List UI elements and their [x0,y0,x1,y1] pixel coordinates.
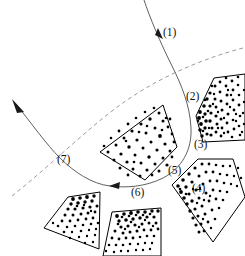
label-7: (7) [57,153,71,166]
region-upper-right-specks [197,76,245,139]
label-2: (2) [186,90,200,103]
region-center [100,105,177,180]
region-right-lower-specks [176,163,242,234]
region-right-lower [172,159,245,242]
region-bottom-center-specks [105,209,160,253]
diagram-canvas: (1) (2) (3) (4) (5) (6) (7) [0,0,245,256]
label-1: (1) [163,26,177,39]
label-6: (6) [131,186,145,199]
label-3: (3) [194,138,208,151]
arrow-left-icon [12,99,24,113]
arrow-bottom-icon [109,182,120,189]
region-bottom-left-specks [52,194,99,244]
label-4: (4) [192,182,206,195]
region-bottom-center-outline [103,208,161,256]
region-bottom-center [103,208,161,256]
region-bottom-left [44,192,100,249]
region-upper-right [196,74,245,142]
label-5: (5) [168,164,182,177]
figure-container: (1) (2) (3) (4) (5) (6) (7) [0,0,245,256]
